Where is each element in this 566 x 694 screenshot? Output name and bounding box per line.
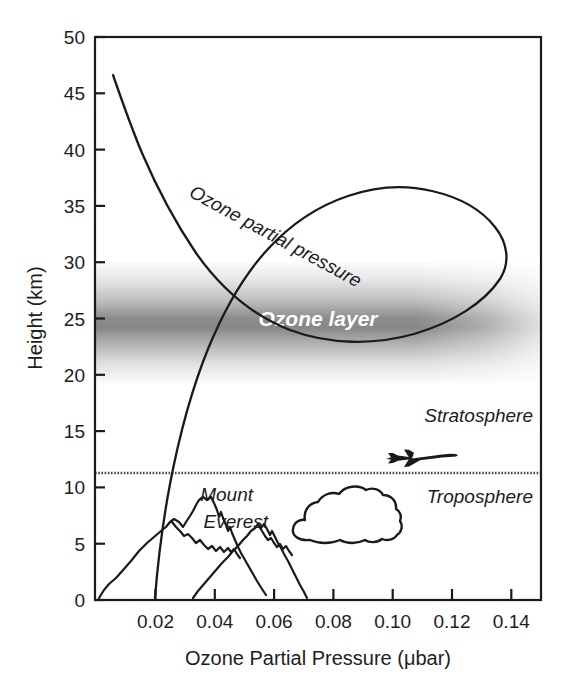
y-tick-label: 0	[74, 590, 85, 611]
x-tick-label: 0.02	[137, 611, 174, 632]
y-tick-label: 25	[64, 309, 85, 330]
y-axis-title: Height (km)	[24, 266, 46, 369]
y-tick-label: 50	[64, 27, 85, 48]
ozone-profile-chart: Ozone layer Mount Everest Stratosphere T…	[0, 0, 566, 694]
y-tick-label: 45	[64, 83, 85, 104]
y-tick-label: 20	[64, 365, 85, 386]
chart-canvas: Ozone layer Mount Everest Stratosphere T…	[0, 0, 566, 694]
stratosphere-label: Stratosphere	[424, 405, 533, 426]
troposphere-label: Troposphere	[427, 486, 533, 507]
everest-label-line2: Everest	[204, 511, 269, 532]
y-tick-label: 35	[64, 196, 85, 217]
y-axis-tick-labels: 0 5 10 15 20 25 30 35 40 45 50	[64, 27, 85, 611]
x-axis-title: Ozone Partial Pressure (μbar)	[185, 647, 451, 669]
y-tick-label: 40	[64, 140, 85, 161]
x-tick-label: 0.14	[493, 611, 530, 632]
y-tick-label: 15	[64, 421, 85, 442]
y-tick-label: 10	[64, 477, 85, 498]
x-tick-label: 0.08	[315, 611, 352, 632]
x-axis-tick-labels: 0.02 0.04 0.06 0.08 0.10 0.12 0.14	[137, 611, 530, 632]
x-axis-ticks	[156, 589, 512, 600]
cloud-icon	[293, 487, 402, 543]
x-tick-label: 0.06	[256, 611, 293, 632]
airplane-icon	[386, 449, 458, 467]
x-tick-label: 0.10	[374, 611, 411, 632]
y-axis-ticks	[95, 37, 105, 600]
y-tick-label: 30	[64, 252, 85, 273]
y-tick-label: 5	[74, 534, 85, 555]
x-tick-label: 0.04	[196, 611, 233, 632]
ozone-layer-label: Ozone layer	[258, 307, 379, 330]
mount-everest-label: Mount Everest	[200, 484, 269, 532]
x-tick-label: 0.12	[434, 611, 471, 632]
everest-label-line1: Mount	[200, 484, 254, 505]
